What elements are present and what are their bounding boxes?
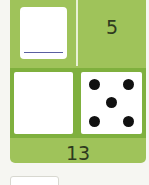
top-number: 5 bbox=[78, 16, 146, 38]
answer-box[interactable] bbox=[10, 176, 59, 185]
pip bbox=[89, 116, 100, 127]
pip bbox=[106, 97, 117, 108]
answer-line bbox=[24, 52, 63, 54]
dice-five-icon bbox=[81, 72, 142, 134]
pip bbox=[123, 79, 134, 90]
empty-square[interactable] bbox=[14, 72, 73, 134]
pip bbox=[89, 79, 100, 90]
middle-band bbox=[10, 68, 146, 138]
number-bond-card: 5 13 bbox=[10, 0, 146, 163]
pip bbox=[123, 116, 134, 127]
total-number: 13 bbox=[10, 142, 146, 164]
answer-input-box[interactable] bbox=[20, 7, 67, 59]
